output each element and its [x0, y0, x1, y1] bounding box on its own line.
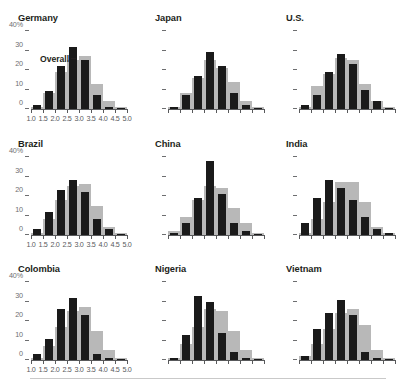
bar-country [230, 352, 237, 360]
x-axis-tick [79, 360, 80, 364]
x-axis-tick [168, 235, 169, 239]
panel-grid: Germany010203040%1.01.52.02.53.03.54.04.… [0, 13, 408, 390]
x-axis-tick [395, 109, 396, 113]
bar-country [218, 333, 225, 360]
plot-area: 010203040%1.01.52.02.53.03.54.04.55.0 [31, 31, 127, 109]
x-axis-tick-label: 2.5 [63, 366, 72, 374]
x-axis-tick [228, 235, 229, 239]
x-axis-tick [91, 235, 92, 239]
y-axis-tick [162, 281, 166, 282]
x-axis-tick [204, 360, 205, 364]
histogram-bin [103, 31, 115, 109]
x-axis-tick [240, 360, 241, 364]
bars-group [168, 282, 264, 360]
histogram-bin [91, 157, 103, 235]
histogram-bin [79, 282, 91, 360]
y-axis-tick [25, 301, 29, 302]
histogram-bin [79, 157, 91, 235]
overall-annotation-label: Overall [40, 54, 69, 64]
y-axis-tick [293, 320, 297, 321]
x-axis-tick [180, 109, 181, 113]
y-axis-tick-label: 30 [15, 166, 23, 173]
y-axis-tick [293, 359, 297, 360]
x-axis-tick-label: 4.5 [111, 366, 120, 374]
y-axis-tick [25, 30, 29, 31]
x-axis-tick-label: 2.0 [51, 241, 60, 249]
bar-country [194, 198, 201, 235]
bar-country [349, 315, 356, 360]
x-axis-tick [115, 109, 116, 113]
panel-title: Nigeria [155, 264, 186, 274]
histogram-bin [103, 282, 115, 360]
panel-vietnam: Vietnam [266, 264, 404, 390]
histogram-bin [67, 31, 79, 109]
x-axis-tick [55, 360, 56, 364]
y-axis-tick [25, 281, 29, 282]
bar-country [337, 54, 344, 109]
bars-group [299, 31, 395, 109]
x-axis-tick-label: 3.0 [75, 366, 84, 374]
panel-china: China [136, 139, 266, 264]
histogram-bin [323, 282, 335, 360]
histogram-bin [359, 282, 371, 360]
bar-country [349, 200, 356, 235]
bar-country [69, 298, 76, 360]
y-axis-tick [293, 50, 297, 51]
histogram-bin [299, 282, 311, 360]
y-axis-tick-label: 10 [15, 205, 23, 212]
histogram-bin [311, 282, 323, 360]
histogram-bin [192, 282, 204, 360]
bars-group [31, 157, 127, 235]
y-axis-tick [293, 215, 297, 216]
plot-area [168, 282, 264, 360]
x-axis-tick [192, 109, 193, 113]
y-axis-tick [162, 195, 166, 196]
histogram-bin [359, 31, 371, 109]
bar-country [325, 180, 332, 235]
y-axis-tick [293, 156, 297, 157]
y-axis-tick [293, 30, 297, 31]
y-axis-tick [293, 69, 297, 70]
bars-group [168, 157, 264, 235]
y-axis-tick-label: 0 [19, 225, 23, 232]
panel-colombia: Colombia010203040%1.01.52.02.53.03.54.04… [0, 264, 136, 390]
panel-title: Vietnam [286, 264, 322, 274]
histogram-bin [311, 31, 323, 109]
x-axis-tick [311, 109, 312, 113]
panel-title: Germany [18, 13, 58, 23]
x-axis-tick-label: 1.0 [27, 366, 36, 374]
y-axis-tick [25, 69, 29, 70]
x-axis-tick [55, 235, 56, 239]
bar-country [81, 315, 88, 360]
x-axis-tick [127, 360, 128, 364]
x-axis-tick [127, 109, 128, 113]
x-axis-tick [67, 235, 68, 239]
y-axis-tick [162, 301, 166, 302]
histogram-bin [115, 31, 127, 109]
bar-country [230, 93, 237, 109]
x-axis-tick [168, 360, 169, 364]
histogram-bin [31, 282, 43, 360]
plot-area: 010203040%1.01.52.02.53.03.54.04.55.0 [31, 282, 127, 360]
x-axis-tick [216, 109, 217, 113]
histogram-bin [347, 157, 359, 235]
x-axis-tick [383, 235, 384, 239]
histogram-bin [371, 282, 383, 360]
x-axis-tick-label: 3.5 [87, 366, 96, 374]
x-axis-tick [395, 360, 396, 364]
x-axis-tick [347, 109, 348, 113]
annotation-leader-dash [71, 58, 76, 59]
histogram-bin [43, 31, 55, 109]
histogram-bin [168, 31, 180, 109]
x-axis-tick [115, 360, 116, 364]
y-axis-tick [293, 108, 297, 109]
x-axis-tick [168, 109, 169, 113]
y-axis-tick-label: 20 [15, 311, 23, 318]
bars-group [168, 31, 264, 109]
x-axis-tick [252, 360, 253, 364]
bar-country [93, 95, 100, 109]
bar-country [301, 223, 308, 235]
y-axis-tick-label: 20 [15, 60, 23, 67]
y-axis-tick [293, 340, 297, 341]
histogram-bin [335, 157, 347, 235]
